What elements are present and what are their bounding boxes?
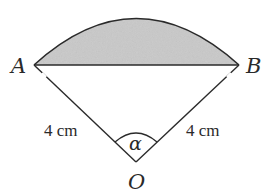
radius-oa-break	[42, 73, 46, 77]
radius-ob-length: 4 cm	[186, 122, 220, 139]
point-label-b: B	[246, 56, 261, 77]
radius-oa-length: 4 cm	[44, 122, 78, 139]
sector-diagram	[0, 0, 272, 195]
point-label-a: A	[11, 56, 26, 77]
radius-ob	[136, 65, 239, 162]
radius-ob-break	[227, 73, 231, 77]
radius-oa	[34, 65, 136, 162]
point-label-o: O	[128, 172, 145, 193]
angle-label-alpha: α	[129, 134, 142, 153]
